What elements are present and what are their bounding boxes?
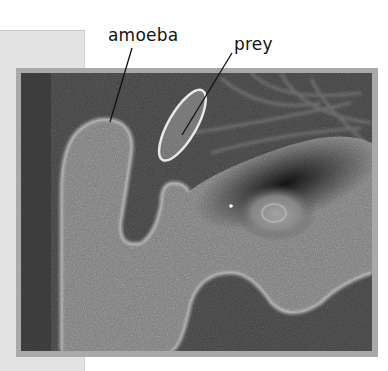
label-prey: prey: [234, 36, 273, 53]
label-amoeba: amoeba: [108, 27, 178, 44]
micrograph-image: [21, 73, 372, 351]
image-frame: [16, 68, 378, 357]
